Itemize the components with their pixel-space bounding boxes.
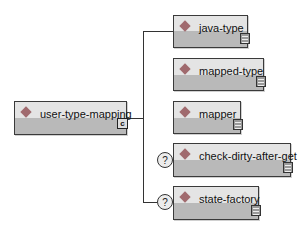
root-node-user-type-mapping[interactable]: user-type-mapping c xyxy=(14,101,127,135)
element-diamond-icon xyxy=(179,148,190,159)
content-list-icon xyxy=(251,205,261,216)
node-label: check-dirty-after-get xyxy=(199,150,297,162)
node-state-factory[interactable]: state-factory xyxy=(173,186,259,220)
content-list-icon xyxy=(240,33,250,44)
content-list-icon xyxy=(233,119,243,130)
element-diamond-icon xyxy=(179,20,190,31)
node-check-dirty-after-get[interactable]: check-dirty-after-get xyxy=(173,143,291,177)
optional-marker-icon: ? xyxy=(157,152,173,168)
element-diamond-icon xyxy=(20,106,31,117)
node-label: state-factory xyxy=(199,193,260,205)
node-label: java-type xyxy=(199,22,244,34)
sequence-connector-icon: c xyxy=(117,118,128,129)
trunk-line xyxy=(143,31,144,203)
node-mapper[interactable]: mapper xyxy=(173,101,241,134)
element-diamond-icon xyxy=(179,63,190,74)
node-label: mapped-type xyxy=(199,65,263,77)
branch-line-java-type xyxy=(143,31,173,32)
optional-marker-icon: ? xyxy=(157,194,173,210)
node-mapped-type[interactable]: mapped-type xyxy=(173,58,264,91)
element-diamond-icon xyxy=(179,106,190,117)
node-java-type[interactable]: java-type xyxy=(173,15,248,48)
element-diamond-icon xyxy=(179,191,190,202)
content-list-icon xyxy=(256,76,266,87)
branch-line-state-factory xyxy=(143,202,157,203)
content-list-icon xyxy=(283,162,293,173)
node-label: mapper xyxy=(199,108,236,120)
